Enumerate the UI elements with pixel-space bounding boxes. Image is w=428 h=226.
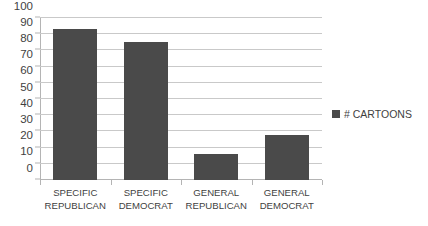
x-axis-label-line: REPUBLICAN	[181, 199, 252, 212]
x-axis-category-label: SPECIFICREPUBLICAN	[40, 186, 111, 212]
x-axis-label-line: REPUBLICAN	[40, 199, 111, 212]
x-axis-label-line: GENERAL	[252, 186, 323, 199]
bar-chart: 0102030405060708090100 SPECIFICREPUBLICA…	[0, 0, 428, 226]
legend: # CARTOONS	[332, 109, 412, 120]
y-axis-tick-label: 100	[14, 1, 33, 13]
bar-series-cartoons	[40, 18, 322, 180]
y-axis-tick-label: 30	[20, 114, 33, 126]
x-axis-tick	[252, 180, 253, 185]
y-axis-tick-label: 80	[20, 33, 33, 45]
bar-slot	[40, 18, 111, 180]
y-axis-tick-label: 60	[20, 66, 33, 78]
x-axis-category-label: SPECIFICDEMOCRAT	[111, 186, 182, 212]
bar	[265, 135, 309, 180]
x-axis-tick	[181, 180, 182, 185]
y-axis-tick-label: 40	[20, 98, 33, 110]
x-axis-tick	[322, 180, 323, 185]
bar-slot	[252, 18, 323, 180]
x-axis-ticks	[40, 180, 322, 185]
bar-slot	[111, 18, 182, 180]
y-axis-labels: 0102030405060708090100	[0, 18, 33, 180]
x-axis-label-line: SPECIFIC	[40, 186, 111, 199]
bar	[194, 154, 238, 180]
y-axis-tick-label: 50	[20, 82, 33, 94]
y-axis-tick-label: 10	[20, 147, 33, 159]
x-axis-label-line: SPECIFIC	[111, 186, 182, 199]
y-axis-tick-label: 0	[27, 163, 33, 175]
legend-label: # CARTOONS	[344, 109, 412, 120]
x-axis-label-line: DEMOCRAT	[111, 199, 182, 212]
legend-color-swatch	[332, 110, 340, 118]
bar	[53, 29, 97, 180]
x-axis-label-line: GENERAL	[181, 186, 252, 199]
plot-area	[40, 18, 322, 180]
x-axis-tick	[111, 180, 112, 185]
x-axis-category-label: GENERALDEMOCRAT	[252, 186, 323, 212]
bar	[124, 42, 168, 180]
bar-slot	[181, 18, 252, 180]
x-axis-tick	[40, 180, 41, 185]
y-axis-tick-label: 20	[20, 130, 33, 142]
y-axis-tick-label: 70	[20, 49, 33, 61]
y-axis-tick-label: 90	[20, 17, 33, 29]
x-axis-category-label: GENERALREPUBLICAN	[181, 186, 252, 212]
x-axis-label-line: DEMOCRAT	[252, 199, 323, 212]
x-axis-labels: SPECIFICREPUBLICANSPECIFICDEMOCRATGENERA…	[40, 186, 322, 212]
